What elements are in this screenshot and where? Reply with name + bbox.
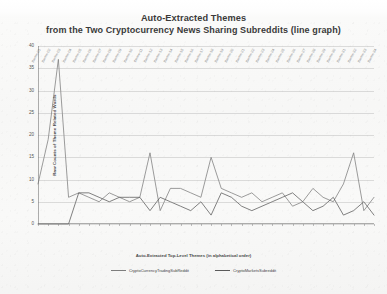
x-tick <box>109 224 110 226</box>
y-tick-label: 5 <box>18 199 34 204</box>
chart-title-line-1: Auto-Extracted Themes <box>0 13 387 23</box>
x-tick <box>252 224 253 226</box>
x-tick <box>293 224 294 226</box>
x-tick <box>140 224 141 226</box>
gridline <box>38 202 374 203</box>
x-tick <box>79 224 80 226</box>
y-tick-label: 10 <box>18 177 34 182</box>
x-tick <box>364 224 365 226</box>
x-tick <box>48 224 49 226</box>
x-tick <box>343 224 344 226</box>
x-tick <box>99 224 100 226</box>
x-tick <box>150 224 151 226</box>
x-tick <box>242 224 243 226</box>
x-tick <box>272 224 273 226</box>
plot-area: 0510152025303540 theme-01theme-02theme-0… <box>38 46 374 224</box>
x-tick <box>333 224 334 226</box>
x-tick <box>303 224 304 226</box>
x-tick <box>323 224 324 226</box>
y-tick-label: 0 <box>18 221 34 226</box>
legend-color-swatch <box>215 270 230 272</box>
y-tick-label: 40 <box>18 43 34 48</box>
y-axis-line <box>38 46 39 224</box>
x-tick <box>231 224 232 226</box>
x-tick <box>191 224 192 226</box>
x-tick <box>201 224 202 226</box>
x-tick <box>211 224 212 226</box>
legend-label: CryptoCurrencyTradingSubReddit <box>129 268 189 273</box>
x-tick <box>170 224 171 226</box>
gridline <box>38 157 374 158</box>
x-tick <box>119 224 120 226</box>
chart-title-line-2: from the Two Cryptocurrency News Sharing… <box>0 25 387 35</box>
legend-label: CryptoMarketsSubreddit <box>233 268 276 273</box>
x-tick <box>130 224 131 226</box>
x-tick <box>69 224 70 226</box>
x-tick <box>160 224 161 226</box>
chart-legend: CryptoCurrencyTradingSubRedditCryptoMark… <box>0 268 387 273</box>
y-tick-label: 25 <box>18 110 34 115</box>
x-tick <box>38 224 39 226</box>
y-tick-label: 15 <box>18 155 34 160</box>
y-tick-label: 30 <box>18 88 34 93</box>
gridline <box>38 91 374 92</box>
y-tick-label: 20 <box>18 132 34 137</box>
gridline <box>38 135 374 136</box>
x-tick <box>313 224 314 226</box>
x-tick <box>354 224 355 226</box>
x-tick <box>181 224 182 226</box>
legend-item[interactable]: CryptoMarketsSubreddit <box>215 268 276 273</box>
legend-color-swatch <box>111 270 126 272</box>
gridline <box>38 68 374 69</box>
x-tick <box>221 224 222 226</box>
legend-item[interactable]: CryptoCurrencyTradingSubReddit <box>111 268 189 273</box>
x-axis-title: Auto-Extracted Top-Level Themes (in alph… <box>0 253 387 258</box>
x-tick <box>282 224 283 226</box>
x-tick <box>374 224 375 226</box>
x-tick <box>89 224 90 226</box>
x-tick <box>262 224 263 226</box>
gridline <box>38 180 374 181</box>
gridline <box>38 113 374 114</box>
x-tick <box>58 224 59 226</box>
y-axis-title: Raw Counts of Theme Related Words <box>52 94 57 175</box>
y-tick-label: 35 <box>18 66 34 71</box>
